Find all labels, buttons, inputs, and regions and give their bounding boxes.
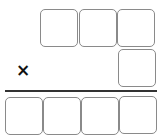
- answer-divider-line: [5, 90, 157, 92]
- multiplicand-digit-box-1[interactable]: [40, 9, 78, 47]
- multiply-sign-icon: ×: [15, 61, 31, 79]
- product-digit-box-1[interactable]: [5, 97, 43, 135]
- multiplier-digit-box[interactable]: [118, 49, 156, 87]
- multiplicand-digit-box-3[interactable]: [117, 9, 155, 47]
- product-digit-box-2[interactable]: [43, 97, 81, 135]
- multiplicand-digit-box-2[interactable]: [79, 9, 117, 47]
- product-digit-box-3[interactable]: [81, 97, 119, 135]
- product-digit-box-4[interactable]: [119, 96, 157, 134]
